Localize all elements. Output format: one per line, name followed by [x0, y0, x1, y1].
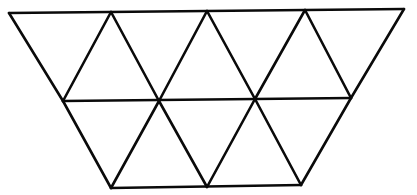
top-row-diagonal	[255, 10, 305, 99]
top-row-diagonal	[351, 9, 404, 98]
bottom-row-diagonal	[207, 99, 255, 187]
bottom-row-diagonal	[63, 101, 111, 188]
diagram-canvas: Trapezoid tiled with equilateral triangl…	[0, 0, 417, 195]
top-row-diagonal	[207, 11, 255, 99]
middle-line	[63, 98, 351, 101]
triangle-edges	[9, 9, 404, 188]
top-row-diagonal	[9, 13, 63, 101]
bottom-row-diagonal	[255, 99, 301, 185]
top-row-diagonal	[305, 10, 351, 98]
triangle-tiling-figure	[0, 0, 417, 195]
top-row-diagonal	[111, 12, 159, 101]
bottom-row-diagonal	[301, 98, 351, 185]
top-row-diagonal	[159, 11, 207, 101]
bottom-row-diagonal	[159, 101, 207, 187]
bottom-row-diagonal	[111, 101, 159, 188]
top-row-diagonal	[63, 12, 111, 101]
